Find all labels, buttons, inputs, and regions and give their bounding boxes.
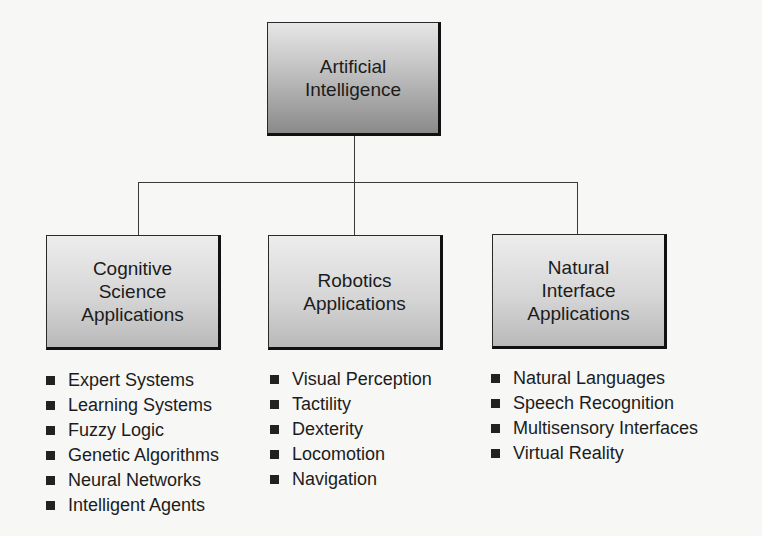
connector-left-vertical bbox=[138, 182, 139, 235]
list-item: Virtual Reality bbox=[490, 441, 698, 466]
square-bullet-icon bbox=[270, 425, 279, 434]
list-item: Fuzzy Logic bbox=[45, 418, 219, 443]
list-item: Visual Perception bbox=[269, 367, 432, 392]
branch-node-robotics: Robotics Applications bbox=[268, 235, 443, 350]
square-bullet-icon bbox=[46, 401, 55, 410]
square-bullet-icon bbox=[46, 501, 55, 510]
root-node-label: Artificial Intelligence bbox=[305, 55, 401, 101]
square-bullet-icon bbox=[46, 451, 55, 460]
branch-node-label: Cognitive Science Applications bbox=[81, 257, 183, 326]
connector-right-vertical bbox=[577, 182, 578, 234]
square-bullet-icon bbox=[270, 375, 279, 384]
square-bullet-icon bbox=[491, 399, 500, 408]
list-item: Multisensory Interfaces bbox=[490, 416, 698, 441]
list-item: Learning Systems bbox=[45, 393, 219, 418]
list-item: Neural Networks bbox=[45, 468, 219, 493]
square-bullet-icon bbox=[491, 374, 500, 383]
branch-node-label: Natural Interface Applications bbox=[527, 256, 629, 325]
square-bullet-icon bbox=[46, 426, 55, 435]
cognitive-science-list: Expert Systems Learning Systems Fuzzy Lo… bbox=[45, 368, 219, 518]
connector-middle-vertical bbox=[354, 182, 355, 235]
branch-node-natural-interface: Natural Interface Applications bbox=[492, 234, 667, 349]
square-bullet-icon bbox=[491, 424, 500, 433]
list-item: Intelligent Agents bbox=[45, 493, 219, 518]
natural-interface-list: Natural Languages Speech Recognition Mul… bbox=[490, 366, 698, 466]
branch-node-label: Robotics Applications bbox=[303, 269, 405, 315]
robotics-list: Visual Perception Tactility Dexterity Lo… bbox=[269, 367, 432, 492]
square-bullet-icon bbox=[46, 476, 55, 485]
branch-node-cognitive-science: Cognitive Science Applications bbox=[46, 235, 221, 350]
root-node-artificial-intelligence: Artificial Intelligence bbox=[267, 22, 441, 136]
square-bullet-icon bbox=[270, 400, 279, 409]
square-bullet-icon bbox=[270, 450, 279, 459]
list-item: Expert Systems bbox=[45, 368, 219, 393]
square-bullet-icon bbox=[270, 475, 279, 484]
list-item: Locomotion bbox=[269, 442, 432, 467]
list-item: Navigation bbox=[269, 467, 432, 492]
square-bullet-icon bbox=[46, 376, 55, 385]
list-item: Speech Recognition bbox=[490, 391, 698, 416]
list-item: Natural Languages bbox=[490, 366, 698, 391]
square-bullet-icon bbox=[491, 449, 500, 458]
connector-horizontal bbox=[138, 182, 578, 183]
list-item: Tactility bbox=[269, 392, 432, 417]
list-item: Genetic Algorithms bbox=[45, 443, 219, 468]
list-item: Dexterity bbox=[269, 417, 432, 442]
connector-root-vertical bbox=[354, 136, 355, 183]
